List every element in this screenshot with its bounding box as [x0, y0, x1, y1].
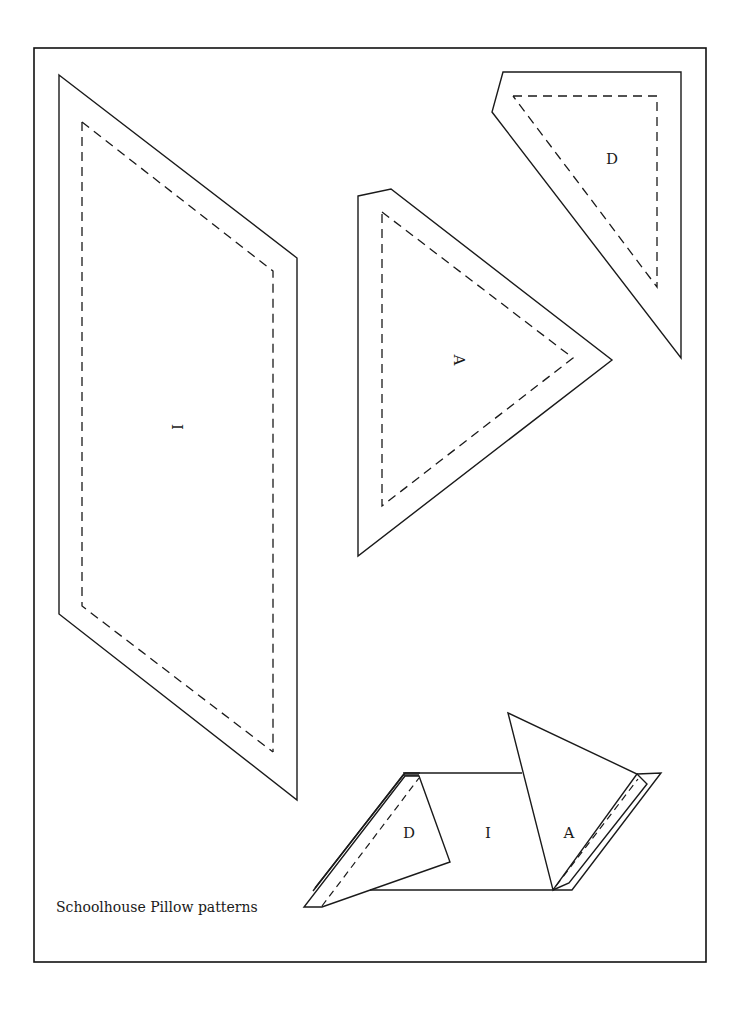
assembly-i-label: I [485, 824, 491, 842]
piece-i-label: I [168, 424, 186, 430]
piece-i-cut-line [59, 75, 297, 800]
pattern-sheet: I A D D I A [0, 0, 744, 1015]
pattern-piece-a: A [358, 189, 612, 556]
figure-caption: Schoolhouse Pillow patterns [56, 899, 258, 915]
assembly-d-seam-line [322, 778, 419, 906]
assembly-d-label: D [403, 824, 415, 842]
piece-i-seam-line-bottom [82, 122, 273, 752]
assembly-a-label: A [563, 824, 575, 842]
piece-d-seam-line [513, 96, 657, 287]
piece-a-cut-line [358, 189, 612, 556]
pattern-piece-i: I [59, 75, 297, 800]
piece-i-seam-line-top [82, 122, 273, 752]
pattern-piece-d: D [492, 72, 681, 358]
page-frame [34, 48, 706, 962]
assembly-a-piece [508, 713, 637, 890]
piece-a-label: A [450, 354, 468, 366]
assembly-d-piece [304, 776, 450, 907]
piece-d-label: D [606, 150, 618, 168]
assembly-diagram: D I A [304, 713, 661, 907]
piece-d-cut-line [492, 72, 681, 358]
